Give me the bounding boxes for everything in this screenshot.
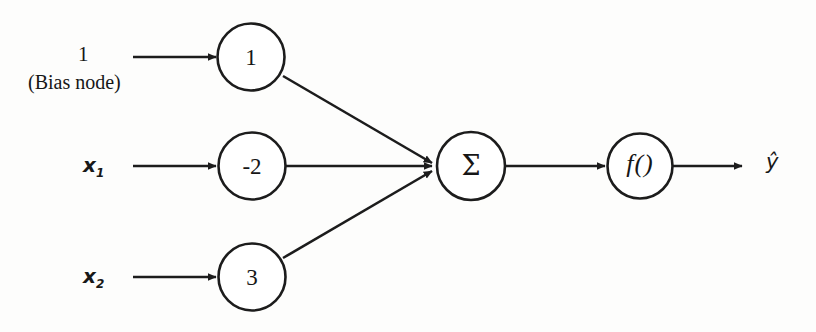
input-label-x1: x1 [83, 155, 104, 179]
diagram-vector-layer [0, 0, 816, 332]
input-label-x2-base: x [83, 264, 96, 288]
node-label-bias-weight: 1 [216, 46, 286, 69]
input-label-x2: x2 [83, 266, 104, 290]
node-label-activation: f() [606, 151, 674, 177]
node-label-x1-weight: -2 [217, 155, 287, 178]
node-label-summation: Σ [436, 152, 506, 179]
input-label-x2-subscript: 2 [96, 277, 104, 291]
input-label-x1-base: x [83, 153, 96, 177]
input-label-bias-value: 1 [78, 44, 89, 65]
input-label-x1-subscript: 1 [96, 166, 104, 180]
edge-x2-to-sum [283, 171, 432, 258]
neural-network-diagram: 1 (Bias node) x1 x2 1 -2 3 Σ f() ŷ [0, 0, 816, 332]
node-label-x2-weight: 3 [217, 266, 287, 289]
input-label-bias-caption: (Bias node) [28, 72, 121, 92]
output-label-yhat: ŷ [766, 152, 778, 173]
edge-bias-to-sum [283, 76, 432, 163]
